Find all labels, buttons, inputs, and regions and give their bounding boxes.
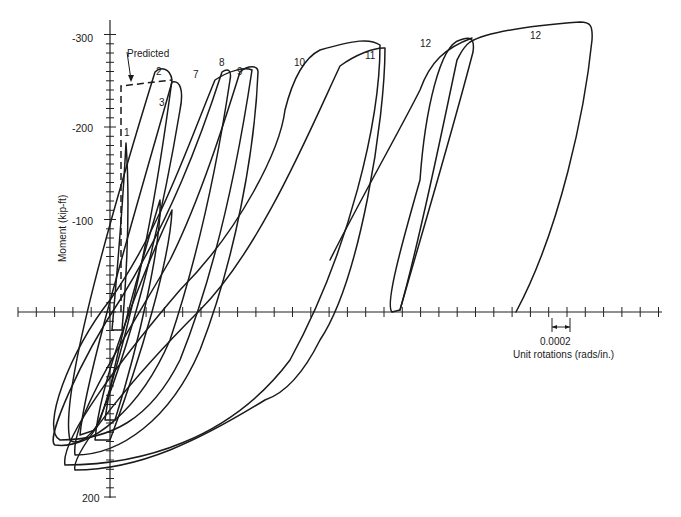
cycle-label: 8: [219, 57, 225, 68]
x-axis-label: Unit rotations (rads/in.): [513, 349, 614, 360]
cycle-10-loop: [65, 41, 380, 465]
cycle-12a-upper: [330, 38, 472, 260]
cycle-label: 12: [420, 38, 432, 49]
y-tick-label: -200: [72, 122, 93, 134]
cycle-label: 9: [237, 66, 243, 77]
cycle-label: 2: [156, 66, 162, 77]
y-tick-label: -100: [72, 215, 93, 227]
hysteresis-chart: -300 -200 -100 200 Moment (kip-ft) Predi…: [0, 0, 681, 517]
cycle-12b-loop: [400, 22, 592, 312]
y-axis-label: Moment (kip-ft): [57, 195, 68, 262]
arrowhead-icon: [128, 75, 134, 82]
cycle-label: 10: [294, 57, 306, 68]
cycle-label: 3: [159, 97, 165, 108]
hysteresis-curves: [53, 22, 592, 470]
cycle-label: 1: [124, 127, 130, 138]
cycle-label: 12: [530, 30, 542, 41]
scale-label: 0.0002: [540, 336, 571, 347]
scale-indicator: [552, 318, 570, 332]
predicted-label: Predicted: [127, 48, 169, 59]
y-tick-label: -300: [72, 32, 93, 44]
y-tick-label: 200: [82, 492, 100, 504]
cycle-label: 7: [193, 69, 199, 80]
cycle-label: 11: [365, 50, 376, 61]
